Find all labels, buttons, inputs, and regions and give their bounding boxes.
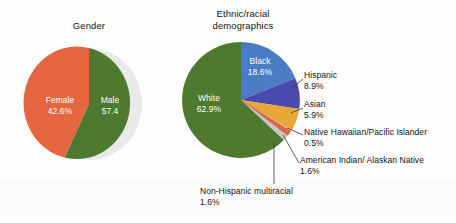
- ethnic-label-non-hispanic-multiracial: Non-Hispanic multiracial 1.6%: [200, 186, 360, 207]
- gender-chart-title: Gender: [28, 20, 150, 32]
- ethnic-label-native-hawaiian-pacific-islander: Native Hawaiian/Pacific Islander 0.5%: [304, 127, 456, 148]
- ethnic-chart-title: Ethnic/racial demographics: [182, 8, 304, 32]
- ethnic-label-american-indian-alaskan-native: American Indian/ Alaskan Native 1.6%: [300, 155, 456, 176]
- ethnic-label-white: White 62.9%: [186, 93, 232, 114]
- ethnic-label-hispanic: Hispanic 8.9%: [304, 70, 454, 91]
- ethnic-label-black: Black 18.6%: [238, 56, 282, 77]
- gender-label-female: Female 42.6%: [36, 95, 84, 116]
- gender-label-male: Male 57.4: [88, 95, 132, 116]
- demographics-figure: Gender Female 42.6% Male 57.4 Ethnic/rac…: [0, 0, 456, 223]
- ethnic-label-asian: Asian 5.9%: [304, 99, 454, 120]
